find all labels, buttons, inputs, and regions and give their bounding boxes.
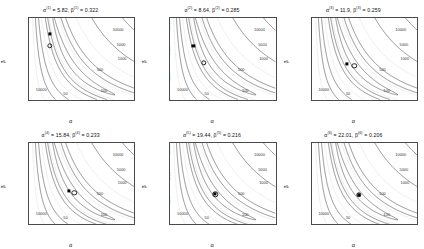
y-tick-label: 0.30 [311, 47, 312, 55]
panel-title-4: α(4) = 15.84, β(4) = 0.233 [0, 131, 141, 138]
current-estimate-marker [345, 62, 348, 65]
contour-label: 5000 [399, 42, 408, 47]
contour-label: 10000 [395, 27, 406, 32]
x-tick-mark [393, 100, 394, 101]
contour-label: 1000 [118, 55, 127, 60]
y-tick-mark [311, 60, 312, 61]
x-axis-label: α [0, 118, 141, 124]
x-tick-mark [272, 100, 273, 101]
y-axis-label: β [282, 185, 288, 188]
contour-label: 100 [101, 87, 108, 92]
title-alpha-value: 22.01 [338, 131, 351, 137]
y-tick-mark [28, 210, 29, 211]
y-tick-label: 0.40 [169, 146, 170, 154]
x-axis-label: α [0, 242, 141, 248]
x-tick-mark [332, 100, 333, 101]
x-axis-label: α [283, 242, 424, 248]
contour-label: 100 [383, 87, 390, 92]
x-tick-mark [110, 100, 111, 101]
x-tick-mark [352, 224, 353, 225]
y-axis-label: β [0, 61, 6, 64]
x-tick-mark [130, 100, 131, 101]
contour-label: 10000 [318, 211, 329, 216]
contour-label: 50 [205, 215, 209, 220]
title-alpha-value: 19.44 [197, 131, 210, 137]
contour-label: 500 [379, 191, 386, 196]
contour-label: 1000 [259, 180, 268, 185]
title-beta-value: 0.233 [86, 131, 99, 137]
x-tick-mark [70, 100, 71, 101]
x-tick-mark [413, 224, 414, 225]
y-tick-mark [169, 85, 170, 86]
plot-area-4: 10000500010005001005010000010203040500.1… [28, 142, 135, 226]
contour-label: 10000 [254, 27, 265, 32]
title-alpha-value: 8.64 [198, 7, 209, 13]
y-tick-mark [311, 185, 312, 186]
y-tick-mark [169, 185, 170, 186]
x-tick-mark [70, 224, 71, 225]
contour-label: 10000 [113, 27, 124, 32]
x-tick-mark [90, 224, 91, 225]
y-tick-mark [28, 159, 29, 160]
contour-label: 10000 [177, 211, 188, 216]
x-tick-mark [49, 224, 50, 225]
y-tick-mark [28, 185, 29, 186]
y-axis-label: β [141, 61, 147, 64]
y-tick-label: 0.30 [169, 172, 170, 180]
x-tick-mark [231, 224, 232, 225]
contour-label: 10000 [177, 86, 188, 91]
x-tick-mark [312, 224, 313, 225]
contour-label: 10000 [36, 211, 47, 216]
y-tick-mark [169, 35, 170, 36]
contour-label: 100 [242, 87, 249, 92]
y-tick-mark [169, 159, 170, 160]
contour-label: 100 [383, 212, 390, 217]
title-alpha-value: 5.82 [57, 7, 68, 13]
y-tick-mark [311, 159, 312, 160]
title-alpha-value: 15.84 [56, 131, 69, 137]
contour-label: 100 [242, 212, 249, 217]
contour-label: 5000 [117, 166, 126, 171]
x-tick-mark [211, 224, 212, 225]
panel-title-1: α(1) = 5.82, β(1) = 0.322 [0, 6, 141, 13]
contour-label: 10000 [36, 86, 47, 91]
x-tick-mark [251, 100, 252, 101]
y-tick-label: 0.20 [311, 73, 312, 81]
plot-area-1: 10000500010005001005010000010203040500.1… [28, 17, 135, 101]
current-estimate-marker [67, 189, 70, 192]
contour-label: 1000 [259, 55, 268, 60]
current-estimate-marker [214, 193, 217, 196]
y-tick-label: 0.10 [169, 98, 170, 100]
title-beta-value: 0.322 [85, 7, 98, 13]
x-tick-mark [251, 224, 252, 225]
y-tick-label: 0.20 [169, 197, 170, 205]
contour-label: 50 [63, 215, 67, 220]
plot-area-3: 10000500010005001005010000010203040500.1… [311, 17, 418, 101]
x-tick-mark [272, 224, 273, 225]
current-estimate-marker [192, 44, 195, 47]
contour-label: 1000 [401, 180, 410, 185]
y-axis-label: β [0, 185, 6, 188]
y-tick-label: 0.20 [169, 73, 170, 81]
x-tick-mark [231, 100, 232, 101]
contour-panel-6: α(6) = 22.01, β(6) = 0.206βα100005000100… [283, 125, 424, 249]
x-axis-label: α [141, 118, 282, 124]
contour-label: 10000 [254, 151, 265, 156]
plot-area-5: 10000500010005001005010000010203040500.1… [169, 142, 276, 226]
contour-label: 5000 [399, 166, 408, 171]
current-estimate-marker [48, 32, 51, 35]
y-tick-mark [311, 85, 312, 86]
contour-label: 5000 [258, 166, 267, 171]
contour-panel-2: α(2) = 8.64, β(2) = 0.285βα1000050001000… [141, 0, 282, 125]
y-tick-label: 0.10 [169, 223, 170, 225]
contour-label: 500 [238, 191, 245, 196]
x-tick-mark [110, 224, 111, 225]
y-tick-mark [169, 60, 170, 61]
x-tick-mark [211, 100, 212, 101]
x-tick-mark [130, 224, 131, 225]
contour-panel-5: α(5) = 19.44, β(5) = 0.216βα100005000100… [141, 125, 282, 249]
contour-label: 5000 [117, 42, 126, 47]
x-tick-mark [393, 224, 394, 225]
panel-title-2: α(2) = 8.64, β(2) = 0.285 [141, 6, 282, 13]
current-estimate-marker [357, 193, 360, 196]
